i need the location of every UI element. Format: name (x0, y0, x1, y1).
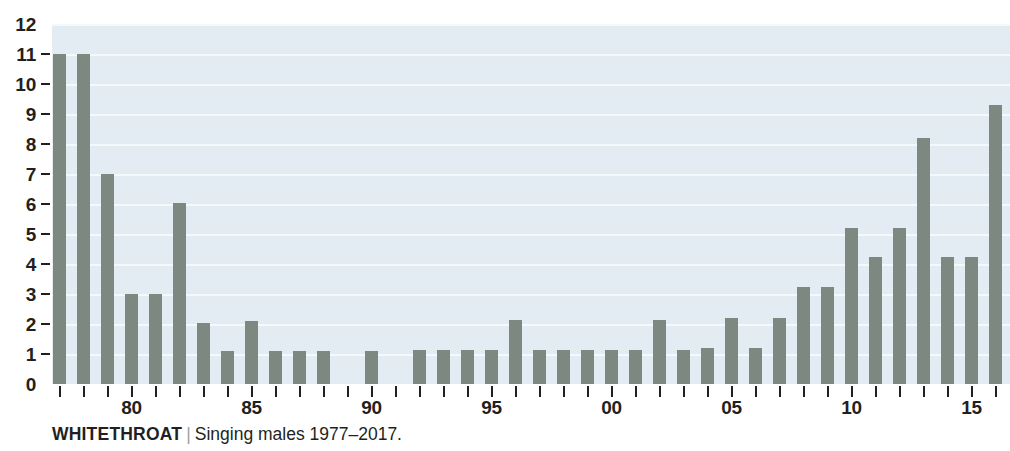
bar (53, 54, 66, 384)
y-tick-label: 12 (15, 15, 36, 34)
x-tick (755, 386, 757, 397)
x-tick-label-90: 90 (361, 398, 382, 417)
y-tick-mark (41, 113, 50, 115)
x-tick (323, 386, 325, 397)
x-tick (251, 386, 253, 397)
y-tick-mark (41, 233, 50, 235)
x-tick (443, 386, 445, 397)
bar (917, 138, 930, 384)
x-tick (563, 386, 565, 397)
bar (725, 318, 738, 384)
bar (845, 228, 858, 384)
x-tick (923, 386, 925, 397)
x-tick (515, 386, 517, 397)
bar (581, 350, 594, 385)
x-tick (83, 386, 85, 397)
bar (149, 294, 162, 384)
x-tick (971, 386, 973, 397)
caption-description: Singing males 1977–2017. (195, 424, 402, 444)
x-tick (731, 386, 733, 397)
bar (557, 350, 570, 385)
bar (269, 351, 282, 384)
y-tick-label: 7 (26, 165, 36, 184)
bar (701, 348, 714, 384)
bar (413, 350, 426, 385)
x-tick-label-10: 10 (841, 398, 862, 417)
y-tick-label: 10 (15, 75, 36, 94)
x-tick-label-80: 80 (121, 398, 142, 417)
x-tick (131, 386, 133, 397)
x-tick (707, 386, 709, 397)
x-tick (779, 386, 781, 397)
bar (125, 294, 138, 384)
bar (893, 228, 906, 384)
x-tick (947, 386, 949, 397)
y-tick-mark (41, 293, 50, 295)
bar (821, 287, 834, 385)
x-tick (155, 386, 157, 397)
bar (965, 257, 978, 385)
x-tick (395, 386, 397, 397)
x-tick (635, 386, 637, 397)
x-tick (995, 386, 997, 397)
y-tick-label: 1 (26, 345, 36, 364)
x-tick (203, 386, 205, 397)
bar (869, 257, 882, 385)
x-tick (467, 386, 469, 397)
x-tick-label-00: 00 (601, 398, 622, 417)
x-tick (299, 386, 301, 397)
bar (173, 203, 186, 385)
y-tick-mark (41, 263, 50, 265)
bar (797, 287, 810, 385)
bar-series (52, 24, 1010, 384)
y-tick-label: 11 (16, 45, 36, 64)
bar (245, 321, 258, 384)
y-tick-mark (41, 173, 50, 175)
bar (77, 54, 90, 384)
caption-separator: | (182, 424, 195, 444)
y-tick-label: 8 (26, 135, 36, 154)
bar (629, 350, 642, 385)
bar (365, 351, 378, 384)
y-tick-mark (41, 383, 50, 385)
x-tick (539, 386, 541, 397)
y-tick-mark (41, 23, 50, 25)
y-tick-mark (41, 353, 50, 355)
y-axis: 0123456789101112 (0, 0, 52, 400)
y-tick-label: 4 (26, 255, 36, 274)
x-tick (611, 386, 613, 397)
x-tick (683, 386, 685, 397)
bar (437, 350, 450, 385)
x-axis: 8085909500051015 (52, 384, 1010, 420)
bar (317, 351, 330, 384)
x-tick (347, 386, 349, 397)
y-tick-label: 9 (26, 105, 36, 124)
y-tick-label: 5 (26, 225, 36, 244)
bar (677, 350, 690, 385)
bar (605, 350, 618, 385)
y-tick-mark (41, 143, 50, 145)
x-tick-label-85: 85 (241, 398, 262, 417)
y-tick-mark (41, 83, 50, 85)
y-tick-label: 0 (26, 375, 36, 394)
x-tick-label-95: 95 (481, 398, 502, 417)
x-tick (419, 386, 421, 397)
bar (533, 350, 546, 385)
x-tick (851, 386, 853, 397)
x-tick (803, 386, 805, 397)
x-tick (227, 386, 229, 397)
whitethroat-bar-chart-figure: 0123456789101112 8085909500051015 WHITET… (0, 0, 1010, 451)
x-tick (491, 386, 493, 397)
bar (485, 350, 498, 385)
bar (101, 174, 114, 384)
x-tick (587, 386, 589, 397)
x-tick (107, 386, 109, 397)
x-tick (827, 386, 829, 397)
bar (221, 351, 234, 384)
bar (941, 257, 954, 385)
x-tick (875, 386, 877, 397)
x-tick (275, 386, 277, 397)
bar (989, 105, 1002, 384)
bar (461, 350, 474, 385)
x-tick (659, 386, 661, 397)
